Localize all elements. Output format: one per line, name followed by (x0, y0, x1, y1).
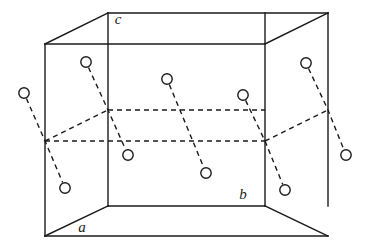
molecule-4 (238, 90, 290, 195)
axis-label-c: c (115, 11, 122, 27)
molecule-4-atom-b (280, 185, 290, 195)
molecule-3-atom-b (201, 168, 211, 178)
unit-cell-diagram: abc (0, 0, 369, 249)
molecule-2-atom-a (81, 57, 91, 67)
solid-edges-group (45, 13, 328, 236)
molecule-5-atom-b (341, 150, 351, 160)
molecule-1-atom-b (60, 183, 70, 193)
molecule-3-atom-a (162, 74, 172, 84)
molecule-5-atom-a (301, 58, 311, 68)
hidden-edges-group (45, 110, 328, 141)
hidden-right-diagonal (265, 110, 328, 141)
molecule-2-bond (88, 67, 125, 149)
molecule-4-bond (246, 100, 283, 184)
unit-cell-figure: abc (0, 0, 369, 249)
bottom-right-diagonal (265, 206, 328, 236)
molecule-5 (301, 58, 351, 160)
axis-label-a: a (78, 219, 86, 235)
molecule-3-bond (169, 85, 203, 168)
molecule-3 (162, 74, 211, 178)
axis-label-b: b (239, 186, 247, 202)
molecule-1-atom-a (19, 88, 29, 98)
molecule-4-atom-a (238, 90, 248, 100)
hidden-left-diagonal (45, 110, 108, 141)
top-right-diagonal (265, 13, 328, 44)
molecule-2 (81, 57, 133, 160)
molecule-5-bond (309, 68, 344, 149)
molecule-2-atom-b (123, 150, 133, 160)
molecules-group (19, 57, 351, 195)
top-left-diagonal (45, 13, 108, 44)
bottom-left-diagonal (45, 206, 108, 236)
